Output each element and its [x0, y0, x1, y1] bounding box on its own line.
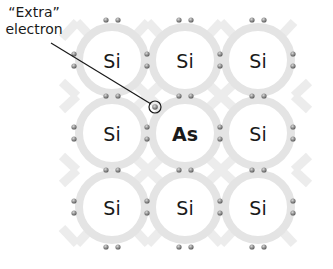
extra-electron: [152, 104, 158, 110]
atom-label-r1c2: Si: [155, 52, 215, 71]
atom-label-r3c2: Si: [155, 199, 215, 218]
atom-label-r2c1: Si: [82, 125, 142, 144]
atom-label-dopant: As: [155, 125, 215, 144]
atom-label-r1c1: Si: [82, 52, 142, 71]
atom-label-r2c3: Si: [228, 125, 288, 144]
doped-silicon-lattice-diagram: Si Si Si Si As Si Si Si Si “Extra” elect…: [0, 0, 333, 269]
atom-label-r3c1: Si: [82, 199, 142, 218]
atom-label-r1c3: Si: [228, 52, 288, 71]
atom-label-r3c3: Si: [228, 199, 288, 218]
extra-electron-annotation: “Extra” electron: [2, 4, 66, 38]
annotation-line-2: electron: [2, 21, 66, 38]
annotation-line-1: “Extra”: [2, 4, 66, 21]
